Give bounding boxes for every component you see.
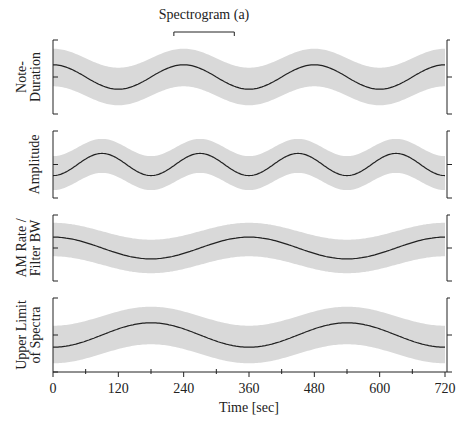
y-axis-label: AM Rate /Filter BW: [14, 218, 43, 277]
x-axis: 0120240360480600720: [50, 369, 456, 396]
spectrogram-annotation: Spectrogram (a): [159, 7, 250, 36]
right-axis: [447, 131, 452, 198]
confidence-band: [53, 223, 445, 274]
panel-2: Amplitude: [27, 131, 452, 198]
right-axis: [447, 40, 452, 114]
figure: Spectrogram (a) Note-DurationAmplitudeAM…: [0, 0, 469, 432]
x-tick-label: 240: [173, 381, 194, 396]
x-tick-label: 480: [304, 381, 325, 396]
spectrogram-bracket: [174, 32, 234, 36]
x-tick-label: 360: [239, 381, 260, 396]
spectrogram-label: Spectrogram (a): [159, 7, 250, 23]
confidence-band: [53, 307, 445, 364]
y-axis-label: Upper Limitof Spectra: [14, 300, 43, 370]
right-axis: [447, 298, 452, 372]
confidence-band: [53, 139, 445, 190]
x-tick-label: 720: [435, 381, 456, 396]
right-axis: [447, 215, 452, 281]
x-tick-label: 600: [369, 381, 390, 396]
confidence-band: [53, 49, 445, 106]
x-tick-label: 120: [108, 381, 129, 396]
panel-4: Upper Limitof Spectra: [14, 298, 452, 372]
x-tick-label: 0: [50, 381, 57, 396]
y-axis-label: Amplitude: [27, 135, 42, 195]
x-axis-label: Time [sec]: [219, 400, 279, 415]
y-axis-label: Note-Duration: [14, 52, 43, 102]
panels: Note-DurationAmplitudeAM Rate /Filter BW…: [14, 40, 452, 372]
panel-1: Note-Duration: [14, 40, 452, 114]
panel-3: AM Rate /Filter BW: [14, 215, 452, 281]
